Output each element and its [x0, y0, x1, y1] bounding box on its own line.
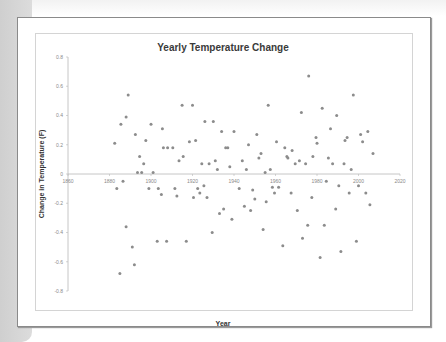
- data-point: [251, 189, 254, 192]
- x-tick-label: 1860: [62, 178, 73, 184]
- data-point: [350, 168, 353, 171]
- data-point: [131, 246, 134, 249]
- data-point: [226, 146, 229, 149]
- data-point: [265, 200, 268, 203]
- data-point: [150, 123, 153, 126]
- y-tick-label: 0.6: [56, 83, 63, 89]
- data-point: [271, 186, 274, 189]
- data-point: [315, 136, 318, 139]
- data-point: [319, 256, 322, 259]
- data-point: [191, 104, 194, 107]
- data-point: [119, 123, 122, 126]
- data-point: [334, 208, 337, 211]
- data-point: [249, 209, 252, 212]
- data-point: [310, 196, 313, 199]
- data-point: [241, 159, 244, 162]
- data-point: [339, 250, 342, 253]
- data-point: [208, 162, 211, 165]
- data-point: [357, 184, 360, 187]
- data-point: [316, 142, 319, 145]
- data-point: [335, 114, 338, 117]
- data-point: [211, 231, 214, 234]
- x-tick-label: 1940: [228, 178, 239, 184]
- data-point: [185, 240, 188, 243]
- data-point: [361, 140, 364, 143]
- data-point: [253, 197, 256, 200]
- data-point: [247, 143, 250, 146]
- data-point: [136, 171, 139, 174]
- data-point: [216, 168, 219, 171]
- data-point: [228, 165, 231, 168]
- data-point: [160, 193, 163, 196]
- scatter-plot: 0.80.60.40.20-0.2-0.4-0.6-0.8 1860188019…: [0, 0, 446, 342]
- data-point: [212, 120, 215, 123]
- data-point: [301, 237, 304, 240]
- data-point: [162, 146, 165, 149]
- data-point: [245, 168, 248, 171]
- data-point: [300, 111, 303, 114]
- data-point: [238, 187, 241, 190]
- data-point: [277, 186, 280, 189]
- data-point: [182, 155, 185, 158]
- data-point: [152, 171, 155, 174]
- x-tick-label: 1920: [187, 178, 198, 184]
- data-point: [192, 196, 195, 199]
- data-point: [344, 139, 347, 142]
- data-point: [260, 152, 263, 155]
- data-point: [173, 187, 176, 190]
- data-point: [243, 205, 246, 208]
- data-point: [286, 156, 289, 159]
- data-point: [142, 162, 145, 165]
- data-point: [125, 225, 128, 228]
- data-point: [171, 146, 174, 149]
- data-point: [325, 180, 328, 183]
- y-tick-label: 0.2: [56, 142, 63, 148]
- data-point: [156, 240, 159, 243]
- y-tick-label: -0.8: [54, 288, 63, 294]
- data-point: [364, 192, 367, 195]
- x-axis-ticks: 186018801900192019401960198020002020: [62, 174, 405, 184]
- data-point: [203, 120, 206, 123]
- data-point: [329, 127, 332, 130]
- data-point: [134, 133, 137, 136]
- data-point: [220, 130, 223, 133]
- data-point: [294, 162, 297, 165]
- data-point: [196, 187, 199, 190]
- data-point: [355, 240, 358, 243]
- data-point: [306, 224, 309, 227]
- data-point: [307, 75, 310, 78]
- data-point: [233, 130, 236, 133]
- data-point: [290, 192, 293, 195]
- data-point: [140, 171, 143, 174]
- y-tick-label: 0: [60, 171, 63, 177]
- data-point: [291, 149, 294, 152]
- data-point: [125, 116, 128, 119]
- data-point: [161, 127, 164, 130]
- data-point: [331, 162, 334, 165]
- data-point: [157, 187, 160, 190]
- data-point: [262, 228, 265, 231]
- y-tick-label: 0.8: [56, 54, 63, 60]
- data-point: [273, 192, 276, 195]
- x-tick-label: 1960: [270, 178, 281, 184]
- data-point: [359, 133, 362, 136]
- data-point: [327, 156, 330, 159]
- data-point: [214, 159, 217, 162]
- y-tick-label: 0.4: [56, 112, 63, 118]
- data-point: [115, 187, 118, 190]
- data-point: [343, 162, 346, 165]
- data-point: [165, 240, 168, 243]
- data-point: [283, 146, 286, 149]
- y-axis-ticks: 0.80.60.40.20-0.2-0.4-0.6-0.8: [54, 54, 68, 294]
- data-point: [366, 130, 369, 133]
- data-point: [147, 187, 150, 190]
- data-point: [281, 244, 284, 247]
- data-point: [304, 162, 307, 165]
- x-tick-label: 1980: [311, 178, 322, 184]
- data-point: [202, 184, 205, 187]
- y-tick-label: -0.2: [54, 200, 63, 206]
- data-point: [144, 139, 147, 142]
- data-point: [194, 139, 197, 142]
- data-point: [348, 192, 351, 195]
- data-point: [222, 208, 225, 211]
